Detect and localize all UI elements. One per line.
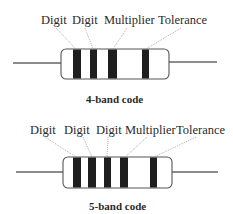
five-band-label-digit-3: Digit (96, 123, 122, 137)
four-band-resistor (13, 28, 217, 79)
leader-line-multiplier (125, 137, 147, 157)
five-band-resistor (16, 137, 218, 188)
band-digit-2 (88, 158, 96, 188)
leader-line-digit-1 (45, 137, 76, 157)
five-band-label-multiplier: Multiplier (125, 123, 176, 137)
band-digit-1 (73, 158, 81, 188)
leader-line-digit-2 (85, 28, 93, 49)
leader-line-digit-2 (83, 137, 92, 157)
four-band-caption: 4-band code (86, 93, 143, 106)
band-multiplier (108, 50, 117, 79)
leader-line-tolerance (146, 28, 181, 49)
band-multiplier (120, 158, 128, 188)
leader-line-tolerance (154, 137, 196, 157)
five-band-caption: 5-band code (89, 200, 146, 213)
band-tolerance (150, 158, 157, 188)
band-tolerance (142, 50, 149, 79)
four-band-label-tolerance: Tolerance (158, 13, 207, 27)
leader-line-digit-1 (56, 28, 76, 49)
band-digit-1 (73, 50, 81, 79)
five-band-label-digit-1: Digit (30, 123, 56, 137)
four-band-label-multiplier: Multiplier (104, 13, 155, 27)
leader-line-multiplier (113, 28, 127, 49)
four-band-label-digit-1: Digit (41, 13, 67, 27)
five-band-label-tolerance: Tolerance (176, 123, 225, 137)
band-digit-3 (104, 158, 111, 188)
five-band-label-digit-2: Digit (64, 123, 90, 137)
leader-line-digit-3 (107, 137, 108, 157)
four-band-label-digit-2: Digit (72, 13, 98, 27)
resistor-drawings (0, 0, 233, 214)
resistor-color-code-figure: Digit Digit Multiplier Tolerance 4-band … (0, 0, 233, 214)
band-digit-2 (90, 50, 97, 79)
